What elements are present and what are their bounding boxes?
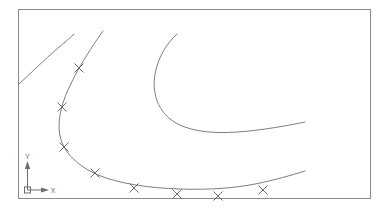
curve-main-spline-lower[interactable] <box>64 147 305 189</box>
curve-inner-offset-arc[interactable] <box>154 34 305 133</box>
drawing-border <box>19 10 371 199</box>
point-marker-3[interactable] <box>60 143 69 152</box>
point-marker-8[interactable] <box>259 186 268 195</box>
x-axis-label: X <box>51 187 56 194</box>
ucs-icon[interactable]: Y X <box>25 153 56 194</box>
curve-main-spline-upper[interactable] <box>59 31 103 147</box>
curve-upper-left-arc[interactable] <box>19 34 74 84</box>
point-marker-4[interactable] <box>91 169 100 178</box>
curve-group <box>19 31 305 189</box>
point-marker-7[interactable] <box>214 192 223 201</box>
point-marker-6[interactable] <box>173 190 182 199</box>
point-marker-1[interactable] <box>75 64 84 73</box>
y-axis-arrow-icon <box>25 161 30 169</box>
point-marker-2[interactable] <box>58 103 67 112</box>
x-axis-arrow-icon <box>41 187 49 192</box>
drawing-canvas[interactable]: Y X <box>0 0 387 216</box>
y-axis-label: Y <box>25 153 30 160</box>
drawing-area[interactable]: Y X <box>0 0 387 216</box>
